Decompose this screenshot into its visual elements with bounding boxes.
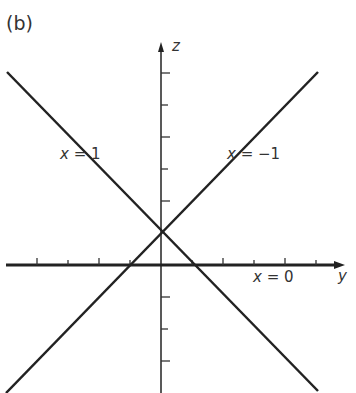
label-x-equals-0: x = 0 xyxy=(253,268,294,286)
y-axis-label: y xyxy=(338,267,347,285)
label-x-equals-1: x = 1 xyxy=(60,145,101,163)
z-axis-arrow xyxy=(158,42,164,52)
z-axis-label: z xyxy=(172,37,180,55)
z-axis-ticks xyxy=(161,73,170,361)
diagram-canvas xyxy=(0,0,356,393)
label-x-equals-minus-1: x = −1 xyxy=(227,145,280,163)
panel-label: (b) xyxy=(6,12,33,34)
